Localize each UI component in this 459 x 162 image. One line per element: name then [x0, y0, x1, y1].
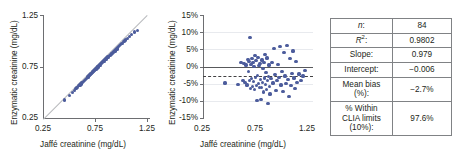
- bias-x-tick-1: 0.25: [187, 124, 217, 133]
- bias-y-tick-1: 15%: [164, 11, 198, 20]
- data-point: [245, 83, 248, 86]
- data-point: [287, 95, 290, 98]
- stat-value: 84: [392, 19, 451, 34]
- data-point: [289, 84, 292, 87]
- bias-y-tickmark-5: [200, 49, 203, 50]
- bias-x-tick-2: 0.75: [240, 124, 270, 133]
- table-row: Slope:0.979: [331, 48, 452, 63]
- data-point: [256, 56, 259, 59]
- bias-y-tick-2: 10%: [164, 28, 198, 37]
- scatter-y-tick-2: 0.75: [8, 62, 38, 71]
- scatter-y-tickmark-top: [40, 15, 43, 16]
- bias-x-axis-title: Jaffé creatinine (mg/dL): [178, 140, 308, 149]
- scatter-plot-area: [43, 15, 150, 119]
- data-point: [301, 74, 304, 77]
- data-point: [260, 86, 263, 89]
- bias-y-tick-5: -5%: [164, 79, 198, 88]
- data-point: [264, 71, 267, 74]
- table-row: % WithinCLIA limits(10%):97.6%: [331, 102, 452, 136]
- scatter-x-tick-2: 0.75: [80, 124, 110, 133]
- stat-value: 97.6%: [392, 102, 451, 136]
- data-point: [293, 87, 296, 90]
- stat-label: % WithinCLIA limits(10%):: [331, 102, 393, 136]
- bias-y-tickmark-n10: [200, 101, 203, 102]
- scatter-y-axis-title: Enzymatic creatinine (mg/dL): [10, 20, 19, 125]
- data-point: [252, 80, 255, 83]
- data-point: [270, 61, 273, 64]
- data-point: [275, 79, 278, 82]
- data-point: [274, 89, 277, 92]
- statistics-panel: n:84R2:0.9802Slope:0.979Intercept:−0.006…: [322, 0, 459, 162]
- scatter-y-tick-3: 0.25: [8, 113, 38, 122]
- data-point: [272, 47, 275, 50]
- data-point: [291, 49, 294, 52]
- table-row: Intercept:−0.006: [331, 63, 452, 78]
- data-point: [269, 77, 272, 80]
- bias-x-tick-3: 1.25: [292, 124, 322, 133]
- data-point: [261, 67, 264, 70]
- scatter-x-axis-line: [43, 118, 150, 119]
- scatter-y-axis-line: [43, 15, 44, 119]
- statistics-table: n:84R2:0.9802Slope:0.979Intercept:−0.006…: [330, 18, 452, 136]
- scatter-x-tickmark-mid: [95, 119, 96, 122]
- data-point: [303, 69, 306, 72]
- data-point: [292, 76, 295, 79]
- data-point: [250, 57, 253, 60]
- data-point: [248, 36, 251, 39]
- data-point: [259, 98, 262, 101]
- stat-value: −2.7%: [392, 77, 451, 101]
- data-point: [279, 83, 282, 86]
- data-point: [254, 59, 257, 62]
- stat-label: R2:: [331, 33, 393, 48]
- bias-gridline-10: [203, 32, 313, 33]
- stat-value: 0.979: [392, 48, 451, 63]
- data-point: [255, 99, 258, 102]
- data-point: [244, 63, 247, 66]
- bias-y-tickmark-10: [200, 32, 203, 33]
- scatter-y-tick-1: 1.25: [8, 11, 38, 20]
- data-point: [253, 88, 256, 91]
- stat-value: −0.006: [392, 63, 451, 78]
- data-point: [262, 61, 265, 64]
- bias-y-tickmark-n15: [200, 118, 203, 119]
- stat-label: Intercept:: [331, 63, 393, 78]
- figure-panel: Enzymatic creatinine (mg/dL) 1.25 0.75 0…: [0, 0, 459, 162]
- data-point: [264, 83, 267, 86]
- data-point: [130, 33, 133, 36]
- data-point: [294, 60, 297, 63]
- data-point: [68, 94, 71, 97]
- data-point: [297, 72, 300, 75]
- data-point: [262, 90, 265, 93]
- bias-y-tickmark-15: [200, 15, 203, 16]
- scatter-x-tick-1: 0.25: [28, 124, 58, 133]
- scatter-x-axis-title: Jaffé creatinine (mg/dL): [18, 140, 148, 149]
- data-point: [236, 83, 239, 86]
- stat-label: n:: [331, 19, 393, 34]
- data-point: [278, 45, 281, 48]
- data-point: [276, 63, 279, 66]
- bias-y-tick-7: -15%: [164, 113, 198, 122]
- bias-gridline-5: [203, 49, 313, 50]
- data-point: [265, 88, 268, 91]
- data-point: [265, 56, 268, 59]
- table-row: n:84: [331, 19, 452, 34]
- bias-y-tick-4: 0%: [164, 62, 198, 71]
- data-point: [267, 63, 270, 66]
- stat-label: Slope:: [331, 48, 393, 63]
- bias-y-tick-3: 5%: [164, 45, 198, 54]
- bias-zero-reference-line: [203, 67, 313, 68]
- stat-label: Mean bias(%):: [331, 77, 393, 101]
- data-point: [286, 78, 289, 81]
- data-point: [252, 65, 255, 68]
- bias-chart: Enzymatic creatinine (mg/dL) 15% 10% 5% …: [158, 0, 320, 162]
- data-point: [268, 85, 271, 88]
- data-point: [282, 51, 285, 54]
- data-point: [295, 81, 298, 84]
- stat-value: 0.9802: [392, 33, 451, 48]
- data-point: [223, 81, 226, 84]
- data-point: [290, 72, 293, 75]
- data-point: [268, 92, 271, 95]
- data-point: [284, 82, 287, 85]
- bias-plot-area: [203, 15, 313, 119]
- table-row: Mean bias(%):−2.7%: [331, 77, 452, 101]
